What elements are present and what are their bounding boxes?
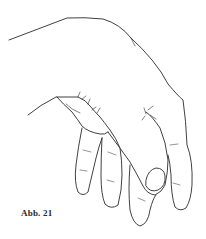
hand-drawing-icon <box>0 0 206 239</box>
hand-illustration <box>0 0 206 239</box>
figure-caption: Abb. 21 <box>21 208 52 218</box>
